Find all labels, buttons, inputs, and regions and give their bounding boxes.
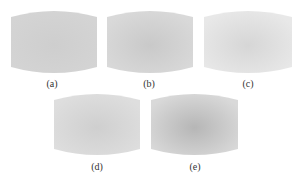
panel-label-b: (b) (134, 78, 164, 90)
cylinder-image-e (151, 94, 238, 155)
cylinder-image-d (54, 94, 140, 155)
cylinder-image-b (107, 11, 193, 73)
panel-label-e: (e) (180, 161, 210, 173)
panel-label-a: (a) (37, 78, 67, 90)
cylinder-image-a (11, 11, 97, 73)
panel-label-c: (c) (233, 78, 263, 90)
panel-label-d: (d) (82, 161, 112, 173)
cylinder-image-c (204, 11, 292, 73)
